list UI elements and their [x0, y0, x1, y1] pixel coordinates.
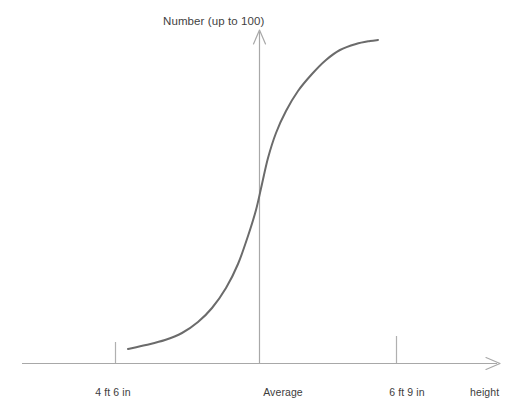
- chart-canvas: Number (up to 100) 4 ft 6 in Average 6 f…: [0, 0, 523, 420]
- x-tick-label-4ft6in: 4 ft 6 in: [95, 386, 130, 398]
- chart-plot-area: [0, 0, 523, 420]
- data-curve-line: [128, 40, 378, 349]
- chart-title: Number (up to 100): [163, 15, 265, 27]
- x-tick-label-average: Average: [263, 386, 303, 398]
- x-axis-title: height: [470, 386, 499, 398]
- x-tick-label-6ft9in: 6 ft 9 in: [389, 386, 424, 398]
